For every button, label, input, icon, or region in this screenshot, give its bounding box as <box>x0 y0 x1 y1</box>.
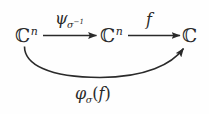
psi-subscript: σ−1 <box>67 19 84 30</box>
node-source-base: ℂ <box>15 24 30 46</box>
node-middle-base: ℂ <box>100 24 115 46</box>
f-arrow-label: f <box>146 12 152 28</box>
psi-symbol: ψ <box>55 9 68 28</box>
psi-subscript-exponent: −1 <box>74 18 84 26</box>
phi-close-paren: ) <box>104 84 110 103</box>
node-target-c: ℂ <box>182 26 197 45</box>
node-source-cn: ℂn <box>15 26 38 45</box>
node-middle-exponent: n <box>116 25 123 38</box>
phi-symbol: φ <box>75 84 86 103</box>
node-middle-cn: ℂn <box>100 26 123 45</box>
commutative-diagram: ℂn ℂn ℂ ψσ−1 f φσ(f) <box>0 0 209 114</box>
f-symbol: f <box>146 10 152 29</box>
node-source-exponent: n <box>31 25 38 38</box>
psi-arrow-label: ψσ−1 <box>55 11 84 27</box>
phi-arrow-label: φσ(f) <box>75 86 111 102</box>
node-target-base: ℂ <box>182 24 197 46</box>
phi-arrow-curve <box>25 47 184 78</box>
